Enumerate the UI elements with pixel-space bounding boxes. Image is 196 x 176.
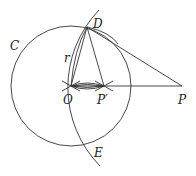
label-pprime: P′ [96,93,108,107]
inversion-diagram: C D r O P′ P E [0,0,196,176]
label-c: C [10,39,19,53]
label-o: O [63,93,73,107]
segment-o-d [71,27,87,86]
label-e: E [93,146,103,160]
label-p: P [177,93,187,107]
label-r: r [64,51,71,65]
label-d: D [92,17,103,31]
